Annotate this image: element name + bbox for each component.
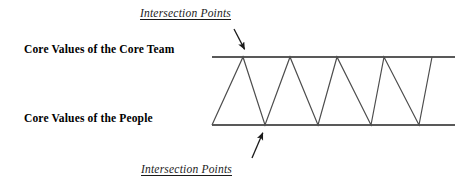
top-intersection-annotation: Intersection Points bbox=[140, 7, 231, 20]
bottom-intersection-annotation: Intersection Points bbox=[141, 163, 232, 176]
people-label: Core Values of the People bbox=[24, 112, 153, 125]
diagram-canvas: Core Values of the Core Team Core Values… bbox=[0, 0, 474, 183]
zigzag-path bbox=[212, 57, 432, 125]
diagram-svg bbox=[0, 0, 474, 183]
bottom-intersection-arrow bbox=[252, 133, 263, 158]
core-team-label: Core Values of the Core Team bbox=[24, 43, 174, 56]
top-intersection-arrow bbox=[234, 29, 245, 49]
